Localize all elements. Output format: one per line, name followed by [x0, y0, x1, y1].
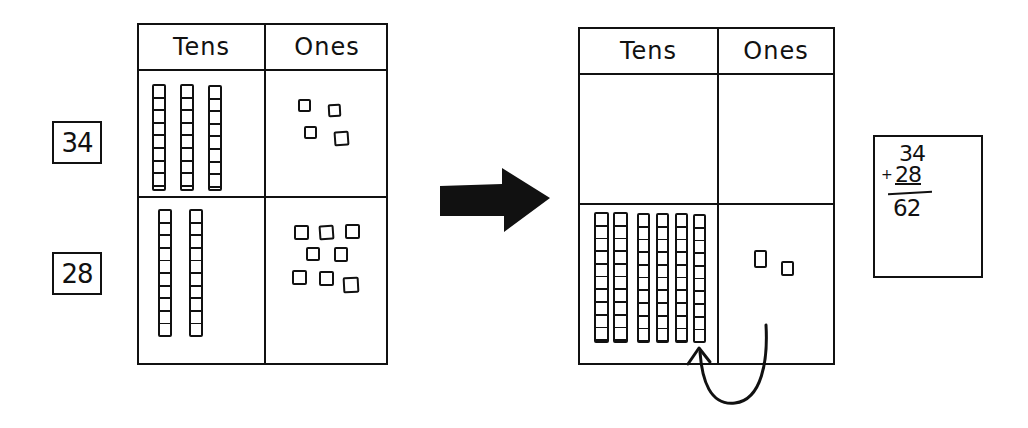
header-divider — [580, 73, 833, 75]
row-divider — [580, 203, 833, 205]
regroup-arrow-icon — [680, 320, 780, 410]
operator-plus: + — [881, 163, 892, 185]
one-unit — [298, 99, 311, 112]
column-divider — [717, 29, 719, 363]
one-unit — [292, 270, 307, 285]
header-divider — [139, 69, 386, 71]
one-unit — [328, 104, 342, 118]
number-34-label: 34 — [61, 128, 92, 158]
ones-header: Ones — [266, 25, 388, 69]
tens-header: Tens — [580, 29, 717, 73]
one-unit — [333, 130, 349, 146]
column-divider — [264, 25, 266, 363]
ten-rod — [656, 213, 669, 343]
ones-header: Ones — [719, 29, 833, 73]
one-unit — [306, 247, 320, 261]
one-unit — [334, 247, 348, 262]
number-box-34: 34 — [52, 121, 102, 164]
ten-rod — [180, 84, 194, 191]
before-place-value-chart: Tens Ones — [137, 23, 388, 365]
ten-rod — [189, 209, 203, 337]
one-unit — [345, 224, 360, 239]
row-divider — [139, 196, 386, 198]
one-unit — [294, 225, 309, 240]
ten-rod — [613, 212, 628, 343]
right-arrow-icon — [440, 166, 552, 236]
addend-2: 28 — [895, 164, 921, 186]
ten-rod — [637, 213, 650, 343]
one-unit — [754, 250, 767, 268]
sum: 62 — [893, 197, 920, 219]
ten-rod — [152, 84, 166, 191]
ten-rod — [594, 212, 609, 343]
one-unit — [781, 261, 794, 276]
one-unit — [343, 277, 360, 294]
number-box-28: 28 — [52, 252, 102, 295]
tens-header: Tens — [139, 25, 264, 69]
one-unit — [304, 126, 317, 139]
ten-rod — [208, 85, 222, 191]
after-place-value-chart: Tens Ones — [578, 27, 835, 365]
number-28-label: 28 — [61, 259, 92, 289]
calculation-box: 34 + 28 62 — [873, 135, 983, 278]
one-unit — [319, 271, 334, 286]
ten-rod — [158, 209, 172, 337]
one-unit — [318, 224, 334, 240]
